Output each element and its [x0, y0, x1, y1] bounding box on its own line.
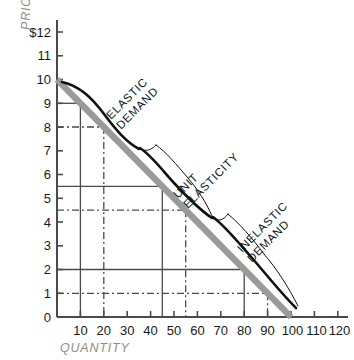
y-tick-label-3: 3 — [44, 238, 51, 253]
y-tick-label-10: 10 — [37, 72, 51, 87]
y-tick-label-5: 5 — [44, 191, 51, 206]
y-tick-label-2: 2 — [44, 262, 51, 277]
x-tick-label-20: 20 — [97, 323, 111, 338]
y-axis-title: PRICE — [19, 0, 33, 30]
x-tick-label-30: 30 — [120, 323, 134, 338]
y-tick-label-7: 7 — [44, 143, 51, 158]
y-tick-label-1: 1 — [44, 286, 51, 301]
x-axis-title: QUANTITY — [60, 341, 130, 355]
x-tick-label-120: 120 — [329, 323, 351, 338]
x-tick-label-90: 90 — [260, 323, 274, 338]
x-tick-label-40: 40 — [143, 323, 157, 338]
y-tick-label-0: 0 — [44, 310, 51, 325]
x-tick-label-100: 100 — [282, 323, 304, 338]
elasticity-chart: 0 1 2 3 4 5 6 7 8 9 10 11 $12 — [0, 0, 354, 360]
x-tick-label-70: 70 — [214, 323, 228, 338]
x-tick-label-110: 110 — [306, 323, 327, 338]
y-tick-label-8: 8 — [44, 120, 51, 135]
x-tick-label-60: 60 — [190, 323, 204, 338]
chart-canvas: 0 1 2 3 4 5 6 7 8 9 10 11 $12 — [0, 0, 354, 360]
chart-background — [0, 0, 354, 360]
y-tick-label-11: 11 — [38, 48, 52, 63]
x-tick-label-50: 50 — [167, 323, 181, 338]
y-tick-label-9: 9 — [44, 96, 51, 111]
y-tick-label-6: 6 — [44, 167, 51, 182]
y-tick-label-4: 4 — [44, 215, 51, 230]
x-tick-label-80: 80 — [237, 323, 251, 338]
x-tick-label-10: 10 — [73, 323, 87, 338]
